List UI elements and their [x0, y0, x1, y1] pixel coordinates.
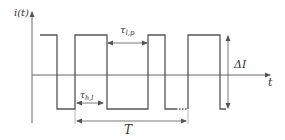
current-waveform: [40, 35, 176, 109]
y-axis-label: i(t): [14, 7, 29, 18]
tau-hl-label: τh,l: [80, 90, 93, 102]
pulse-waveform-diagram: τl,p τh,l ΔI T i(t) t: [0, 0, 285, 140]
period-label: T: [124, 123, 133, 137]
delta-i-label: ΔI: [233, 58, 247, 71]
current-waveform-continued: [188, 35, 226, 109]
x-axis-label: t: [268, 76, 273, 89]
tau-lp-label: τl,p: [120, 24, 135, 37]
